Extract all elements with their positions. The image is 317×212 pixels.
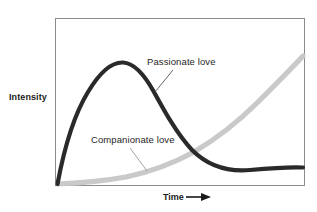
right-arrow-icon — [186, 192, 212, 202]
y-axis-label: Intensity — [9, 92, 47, 102]
x-axis-label: Time — [163, 192, 184, 202]
plot-area — [0, 0, 317, 212]
x-axis-label-group: Time — [163, 192, 212, 202]
series-label-companionate-love: Companionate love — [91, 134, 175, 145]
chart-container: Intensity Time Passionate love Companion… — [0, 0, 317, 212]
series-label-passionate-love: Passionate love — [147, 56, 216, 67]
